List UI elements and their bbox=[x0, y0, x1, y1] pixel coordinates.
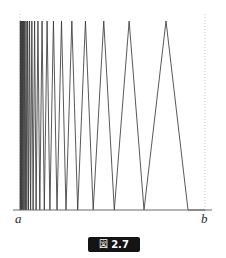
figure-caption-bar: 図 2.7 bbox=[88, 237, 140, 252]
caption-kanji-label: 図 bbox=[99, 240, 108, 249]
zigzag-plot-svg bbox=[0, 0, 226, 226]
figure-container: a b 図 2.7 bbox=[0, 0, 226, 258]
caption-number-label: 2.7 bbox=[111, 240, 129, 250]
plot-area bbox=[0, 0, 226, 226]
oscillating-zigzag-curve bbox=[20, 21, 205, 210]
axis-endpoint-label-a: a bbox=[15, 212, 22, 225]
axis-endpoint-label-b: b bbox=[201, 212, 208, 225]
